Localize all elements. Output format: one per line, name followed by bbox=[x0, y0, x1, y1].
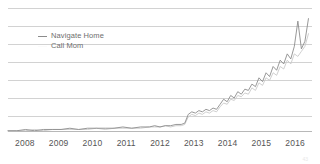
legend-swatch-icon bbox=[38, 36, 47, 37]
line-chart: Navigate Home Call Mom 2008 2009 2010 20… bbox=[0, 0, 320, 164]
x-tick-label: 2009 bbox=[42, 138, 76, 152]
legend-swatch-icon bbox=[38, 46, 47, 47]
corner-artifact-mark: 43 bbox=[302, 156, 308, 162]
x-tick-label: 2012 bbox=[143, 138, 177, 152]
x-tick-label: 2011 bbox=[109, 138, 143, 152]
x-tick-label: 2015 bbox=[244, 138, 278, 152]
legend-item-label: Call Mom bbox=[51, 42, 83, 51]
legend-item-navigate-home[interactable]: Navigate Home bbox=[38, 31, 104, 41]
x-axis-line bbox=[8, 131, 312, 132]
x-tick-label: 2010 bbox=[76, 138, 110, 152]
x-tick-label: 2016 bbox=[278, 138, 312, 152]
legend-item-label: Navigate Home bbox=[51, 32, 104, 41]
plot-area: Navigate Home Call Mom bbox=[8, 6, 312, 132]
legend-item-call-mom[interactable]: Call Mom bbox=[38, 41, 104, 51]
x-tick-label: 2013 bbox=[177, 138, 211, 152]
x-tick-label: 2014 bbox=[211, 138, 245, 152]
legend: Navigate Home Call Mom bbox=[38, 31, 104, 51]
x-tick-label: 2008 bbox=[8, 138, 42, 152]
x-axis-tick-labels: 2008 2009 2010 2011 2012 2013 2014 2015 … bbox=[8, 138, 312, 152]
series-container bbox=[8, 6, 312, 132]
